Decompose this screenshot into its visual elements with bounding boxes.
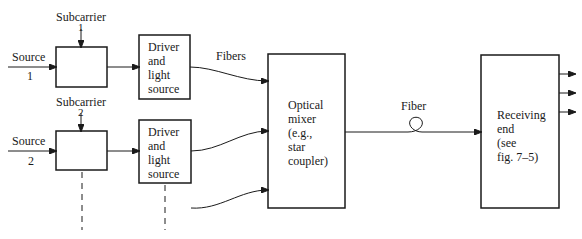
- modulator-2-box: [56, 131, 107, 170]
- receiving-end-line-3: (see: [497, 136, 546, 150]
- source-1-label: Source: [12, 51, 45, 64]
- optical-star-network-diagram: Subcarrier 1 Source 1 Subcarrier 2 Sourc…: [0, 0, 582, 239]
- optical-mixer-line-2: mixer: [288, 112, 328, 126]
- driver-2-line-2: and: [148, 139, 179, 153]
- driver-2-line-1: Driver: [148, 125, 179, 139]
- driver-2-label: Driver and light source: [148, 125, 179, 181]
- fiber-3-curve: [191, 190, 268, 208]
- receiving-end-line-4: fig. 7–5): [497, 150, 546, 164]
- subcarrier-2-number: 2: [78, 106, 84, 119]
- driver-1-label: Driver and light source: [148, 40, 179, 96]
- optical-mixer-line-4: star: [288, 140, 328, 154]
- fiber-label: Fiber: [401, 100, 426, 113]
- fibers-label: Fibers: [216, 50, 246, 63]
- driver-1-line-3: light: [148, 68, 179, 82]
- receiving-end-label: Receiving end (see fig. 7–5): [497, 108, 546, 164]
- optical-mixer-line-3: (e.g.,: [288, 126, 328, 140]
- source-1-number: 1: [27, 70, 33, 83]
- source-2-number: 2: [28, 155, 34, 168]
- fiber-1-curve: [190, 67, 268, 81]
- optical-mixer-line-1: Optical: [288, 98, 328, 112]
- optical-mixer-line-5: coupler): [288, 154, 328, 168]
- modulator-1-box: [56, 47, 107, 87]
- receiving-end-line-2: end: [497, 122, 546, 136]
- driver-2-line-4: source: [148, 167, 179, 181]
- output-fiber-line: [345, 117, 481, 132]
- driver-2-line-3: light: [148, 153, 179, 167]
- source-2-label: Source: [12, 135, 45, 148]
- driver-1-line-2: and: [148, 54, 179, 68]
- driver-1-line-4: source: [148, 82, 179, 96]
- fiber-2-curve: [191, 131, 268, 151]
- receiving-end-line-1: Receiving: [497, 108, 546, 122]
- driver-1-line-1: Driver: [148, 40, 179, 54]
- optical-mixer-label: Optical mixer (e.g., star coupler): [288, 98, 328, 168]
- subcarrier-1-number: 1: [78, 21, 84, 34]
